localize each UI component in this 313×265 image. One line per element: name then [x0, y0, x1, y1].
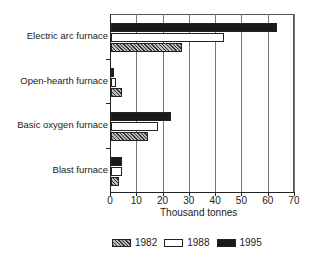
gridline [294, 14, 295, 192]
legend-item-1982: 1982 [112, 237, 157, 248]
x-tick-label: 30 [179, 195, 199, 206]
x-tick-label: 70 [284, 195, 304, 206]
legend-label: 1995 [240, 237, 262, 248]
category-label: Blast furnace [53, 164, 108, 175]
white-swatch-icon [164, 239, 183, 247]
x-axis-title: Thousand tonnes [160, 207, 237, 218]
y-tick [106, 103, 110, 104]
x-tick-label: 20 [153, 195, 173, 206]
bar-1988 [111, 167, 122, 176]
gridline [241, 14, 242, 192]
hatched-swatch-icon [112, 239, 131, 247]
bar-1982 [111, 177, 119, 186]
x-tick-label: 60 [258, 195, 278, 206]
y-tick [106, 59, 110, 60]
bar-1982 [111, 88, 122, 97]
x-tick-label: 50 [231, 195, 251, 206]
bar-1995 [111, 68, 114, 77]
legend-item-1988: 1988 [164, 237, 209, 248]
bar-1982 [111, 43, 182, 52]
x-tick-label: 40 [205, 195, 225, 206]
bar-1988 [111, 122, 158, 131]
black-swatch-icon [217, 239, 236, 247]
y-tick [106, 148, 110, 149]
bar-1982 [111, 132, 148, 141]
x-tick-label: 10 [126, 195, 146, 206]
x-tick-label: 0 [100, 195, 120, 206]
category-label: Open-hearth furnace [20, 75, 108, 86]
legend-label: 1982 [135, 237, 157, 248]
gridline [268, 14, 269, 192]
legend-item-1995: 1995 [217, 237, 262, 248]
x-axis [110, 192, 294, 193]
bar-1988 [111, 78, 116, 87]
legend: 1982 1988 1995 [112, 237, 269, 248]
bar-1988 [111, 33, 224, 42]
bar-1995 [111, 157, 122, 166]
bar-1995 [111, 23, 277, 32]
category-label: Basic oxygen furnace [17, 119, 108, 130]
legend-label: 1988 [187, 237, 209, 248]
category-label: Electric arc furnace [27, 30, 108, 41]
bar-1995 [111, 112, 171, 121]
